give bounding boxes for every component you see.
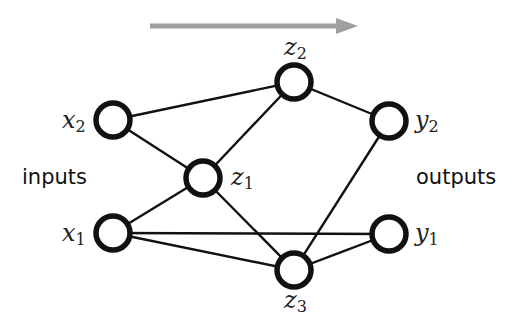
label-x1: x1 — [62, 219, 86, 249]
label-z2: z2 — [283, 33, 307, 63]
node-y2 — [372, 104, 406, 138]
label-y2: y2 — [414, 106, 439, 136]
edge-z1-z2 — [203, 82, 294, 178]
edge-x1-z3 — [113, 233, 294, 270]
edge-x1-y1 — [113, 233, 389, 234]
node-labels: x2 x1 z1 z2 z3 y2 y1 — [62, 33, 439, 316]
node-x1 — [96, 216, 130, 250]
node-x2 — [96, 103, 130, 137]
flow-arrow-icon — [150, 18, 358, 34]
label-z3: z3 — [283, 286, 307, 316]
label-x2: x2 — [62, 106, 86, 136]
node-z3 — [277, 253, 311, 287]
label-z1: z1 — [230, 163, 254, 193]
node-z2 — [277, 65, 311, 99]
label-y1: y1 — [414, 219, 439, 249]
outputs-label: outputs — [416, 165, 496, 189]
node-y1 — [372, 217, 406, 251]
network-diagram: x2 x1 z1 z2 z3 y2 y1 inputs outputs — [0, 0, 516, 326]
inputs-label: inputs — [22, 165, 87, 189]
node-z1 — [186, 161, 220, 195]
edge-x2-z2 — [113, 82, 294, 120]
